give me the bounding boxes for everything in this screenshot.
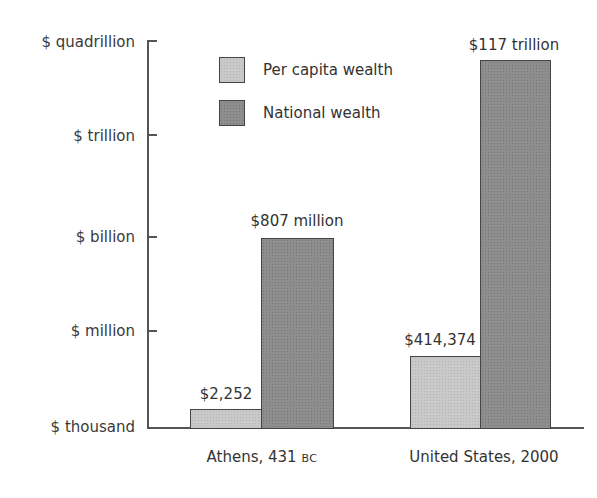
category-label-us: United States, 2000 xyxy=(409,448,558,466)
y-tick-label-trillion: $ trillion xyxy=(73,127,135,145)
y-tick-label-quadrillion: $ quadrillion xyxy=(41,33,135,51)
y-tick-billion xyxy=(147,236,157,238)
value-label-us-per-capita: $414,374 xyxy=(404,331,476,349)
legend-label-national: National wealth xyxy=(263,104,381,122)
legend-item-national: National wealth xyxy=(219,100,381,126)
bar-athens-per-capita xyxy=(190,409,263,429)
category-label-athens: Athens, 431 BC xyxy=(207,448,318,466)
value-label-athens-per-capita: $2,252 xyxy=(200,385,253,403)
legend-item-per-capita: Per capita wealth xyxy=(219,57,393,83)
legend-label-per-capita: Per capita wealth xyxy=(263,61,393,79)
value-label-us-national: $117 trillion xyxy=(469,36,559,54)
legend-swatch-per-capita xyxy=(219,57,245,83)
bar-us-national xyxy=(480,60,551,429)
bar-athens-national xyxy=(261,238,334,429)
legend-swatch-national xyxy=(219,100,245,126)
bar-us-per-capita xyxy=(410,356,482,429)
y-axis xyxy=(147,40,149,429)
y-tick-label-million: $ million xyxy=(71,322,135,340)
category-label-athens-text: Athens, 431 xyxy=(207,448,302,466)
y-tick-label-thousand: $ thousand xyxy=(51,418,135,436)
category-label-athens-era: BC xyxy=(301,452,317,465)
y-tick-trillion xyxy=(147,134,157,136)
value-label-athens-national: $807 million xyxy=(251,212,344,230)
y-tick-label-billion: $ billion xyxy=(76,228,135,246)
y-tick-million xyxy=(147,330,157,332)
y-tick-quadrillion xyxy=(147,40,157,42)
wealth-bar-chart: $ quadrillion $ trillion $ billion $ mil… xyxy=(0,0,597,498)
